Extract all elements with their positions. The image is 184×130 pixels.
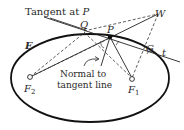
tangent-label: Tangent at P	[25, 6, 89, 17]
label-f2: F2	[23, 83, 35, 96]
label-q: Q	[80, 19, 88, 30]
label-f1: F1	[127, 84, 139, 97]
point-p	[108, 35, 113, 40]
normal-arrow	[84, 59, 98, 66]
focus-f2	[28, 75, 33, 80]
focus-f1	[130, 77, 135, 82]
line-q-w	[84, 14, 158, 31]
ellipse-diagram: Tangent at P Q P W G t E F2 F1 Normal to…	[0, 0, 184, 130]
label-e: E	[24, 40, 33, 51]
label-p: P	[106, 24, 114, 35]
label-w: W	[155, 8, 166, 19]
normal-label-line1: Normal to	[60, 69, 106, 79]
label-t: t	[162, 47, 167, 58]
label-g: G	[146, 43, 154, 54]
line-p-f1	[110, 37, 132, 78]
normal-label-line2: tangent line	[57, 80, 112, 90]
